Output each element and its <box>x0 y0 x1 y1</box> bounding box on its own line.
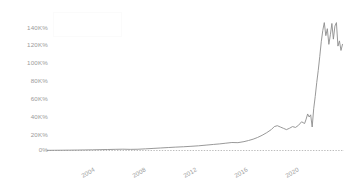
x-tick-label: 2020 <box>284 166 300 179</box>
x-tick-label: 2012 <box>182 166 198 179</box>
legend-box[interactable] <box>53 12 122 37</box>
x-tick-label: 2004 <box>80 166 96 179</box>
x-tick-label: 2016 <box>233 166 249 179</box>
chart-container: 140K%120K%100K%80K%60K%40K%20K%0% 200420… <box>0 0 348 191</box>
x-tick-label: 2008 <box>131 166 147 179</box>
